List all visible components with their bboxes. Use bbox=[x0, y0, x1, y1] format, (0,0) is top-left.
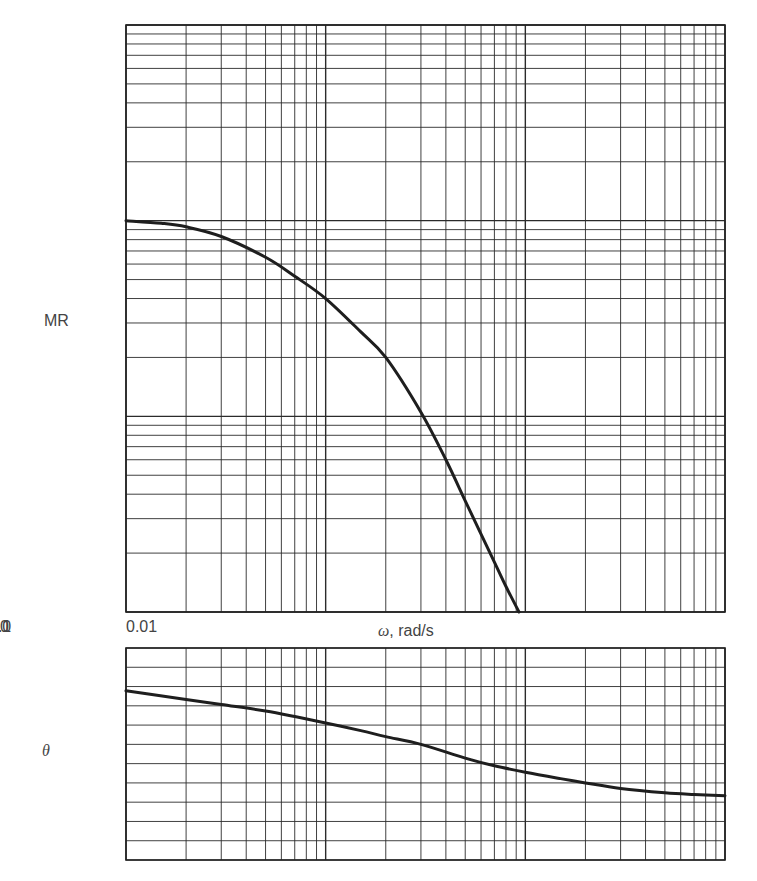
omega-symbol: ω bbox=[378, 622, 389, 639]
phase-y-axis-label: θ bbox=[42, 742, 50, 759]
phase-curve bbox=[126, 691, 725, 796]
x-axis-label: ω, rad/s bbox=[378, 622, 434, 639]
magnitude-grid bbox=[126, 25, 725, 612]
phase-plot-frame bbox=[126, 648, 725, 860]
bode-diagram: 0.010.11.0100.010.11.010 90°0°-90°-180°-… bbox=[0, 0, 757, 881]
magnitude-plot-frame bbox=[126, 25, 725, 612]
phase-tick-labels: 90°0°-90°-180°-270°-360° bbox=[83, 0, 121, 3]
magnitude-y-axis-label: MR bbox=[44, 312, 69, 329]
phase-series bbox=[126, 691, 725, 796]
phase-y-tick-label: -360° bbox=[83, 0, 121, 3]
x-tick-label: 0.01 bbox=[126, 618, 157, 635]
x-axis-label-text: , rad/s bbox=[389, 622, 433, 639]
x-tick-label: 10 bbox=[0, 618, 9, 635]
phase-grid bbox=[126, 648, 725, 860]
magnitude-tick-labels: 0.010.11.0100.010.11.010 bbox=[0, 0, 157, 635]
